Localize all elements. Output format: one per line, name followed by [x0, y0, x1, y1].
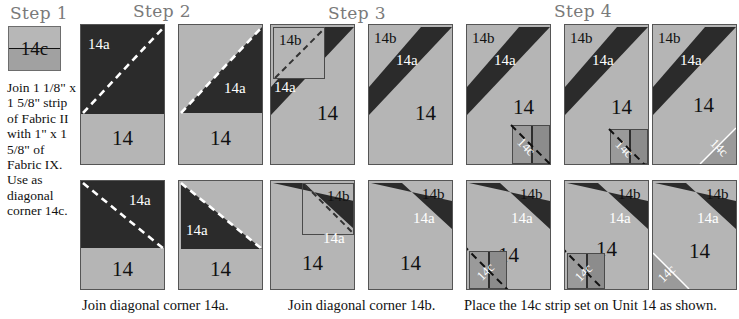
patch-14c: 14c — [567, 253, 605, 289]
label-14b: 14b — [374, 31, 397, 46]
step1-instruction-text: Join 1 1/8" x 1 5/8" strip of Fabric II … — [7, 80, 79, 219]
label-14: 14 — [611, 97, 632, 118]
panel-step4-top-b: 14b 14a 14 14c — [564, 24, 649, 165]
label-14a: 14a — [511, 211, 533, 226]
panel-step4-bottom-a: 14b 14a 14 14c — [466, 180, 551, 290]
label-14: 14 — [415, 103, 436, 124]
panel-step4-top-a: 14b 14a 14 14c — [466, 24, 551, 165]
label-14: 14 — [302, 253, 323, 274]
label-14a: 14a — [224, 81, 246, 96]
label-14: 14 — [400, 253, 421, 274]
label-14b: 14b — [658, 31, 681, 46]
heading-step-1: Step 1 — [10, 3, 68, 23]
label-14: 14 — [317, 103, 338, 124]
fabric-swatch-14c: 14c — [8, 26, 61, 71]
panel-step2-top-a: 14a 14 — [80, 24, 165, 165]
label-14: 14 — [693, 95, 714, 116]
panel-step3-top-a: 14b 14a 14 — [270, 24, 355, 165]
label-14: 14 — [210, 259, 231, 280]
panel-step2-bottom-a: 14a 14 — [80, 180, 165, 290]
patch-14b: 14b — [273, 27, 325, 79]
base-unit-shape — [369, 25, 453, 165]
label-14b: 14b — [520, 187, 543, 202]
label-14a: 14a — [680, 53, 702, 68]
label-14a: 14a — [609, 211, 631, 226]
label-14: 14 — [112, 128, 133, 149]
panel-step2-top-b: 14a 14 — [178, 24, 263, 165]
label-14b: 14b — [706, 187, 729, 202]
fabric-region-dark — [81, 181, 164, 248]
patch-14c: 14c — [610, 129, 648, 164]
panel-step2-bottom-b: 14a 14 — [178, 180, 263, 290]
label-14b: 14b — [279, 33, 302, 48]
label-14: 14 — [513, 97, 534, 118]
heading-step-2: Step 2 — [133, 1, 191, 21]
label-14: 14 — [689, 241, 710, 262]
label-14a: 14a — [494, 53, 516, 68]
swatch-label: 14c — [9, 27, 60, 70]
label-14a: 14a — [592, 53, 614, 68]
label-14c: 14c — [708, 136, 730, 158]
caption-step2: Join diagonal corner 14a. — [82, 297, 229, 314]
label-14a: 14a — [88, 37, 110, 52]
label-14b: 14b — [422, 187, 445, 202]
label-14: 14 — [210, 128, 231, 149]
label-14c: 14c — [655, 262, 677, 284]
label-14a: 14a — [697, 211, 719, 226]
label-14b: 14b — [327, 189, 350, 204]
panel-step4-bottom-c: 14b 14a 14 14c — [652, 180, 737, 290]
heading-step-4: Step 4 — [554, 1, 612, 21]
panel-step4-top-c: 14b 14a 14 14c — [652, 24, 737, 165]
patch-14b: 14b — [302, 183, 354, 235]
label-14b: 14b — [570, 31, 593, 46]
patch-left-half — [303, 184, 328, 234]
quilt-instruction-sheet: Step 1 Step 2 Step 3 Step 4 14c Join 1 1… — [0, 0, 739, 319]
panel-step3-top-b: 14b 14a 14 — [368, 24, 453, 165]
label-14: 14 — [112, 259, 133, 280]
label-14a: 14a — [186, 223, 208, 238]
label-14a: 14a — [274, 80, 296, 95]
panel-step3-bottom-a: 14b 14a 14 — [270, 180, 355, 290]
label-14b: 14b — [472, 31, 495, 46]
panel-step4-bottom-b: 14b 14a 14 14c — [564, 180, 649, 290]
label-14a: 14a — [323, 231, 345, 246]
heading-step-3: Step 3 — [328, 3, 386, 23]
caption-step3: Join diagonal corner 14b. — [288, 297, 435, 314]
patch-right-half — [299, 28, 324, 78]
label-14a: 14a — [129, 193, 151, 208]
label-14a: 14a — [396, 53, 418, 68]
caption-step4: Place the 14c strip set on Unit 14 as sh… — [464, 297, 717, 314]
patch-14c: 14c — [512, 125, 550, 164]
label-14b: 14b — [618, 187, 641, 202]
patch-14c: 14c — [469, 251, 507, 289]
label-14a: 14a — [413, 211, 435, 226]
panel-step3-bottom-b: 14b 14a 14 — [368, 180, 453, 290]
